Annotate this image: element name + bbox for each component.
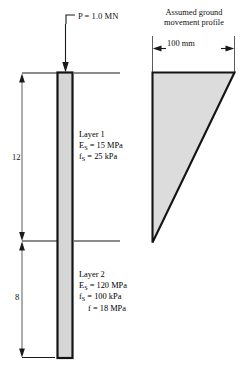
load-label: P = 1.0 MN (78, 11, 118, 21)
load-arrowhead (62, 62, 68, 73)
ground-movement-triangle (153, 73, 235, 243)
dimension-label-lower: 8 (15, 292, 19, 302)
layer2-line-0-sub: S (84, 284, 87, 291)
dimension-arrow-lower-bottom (19, 349, 25, 358)
dimension-label-upper: 12 (12, 152, 21, 162)
load-leader-line (66, 15, 75, 24)
layer2-annotation: Layer 2 ES = 120 MPa fS = 100 kPa f = 18… (79, 270, 127, 315)
layer2-line-0-text: = 120 MPa (88, 281, 127, 290)
profile-dim-arrowhead-left (153, 46, 162, 52)
pile-soil-diagram: P = 1.0 MN Assumed ground movement profi… (0, 0, 242, 376)
profile-width-label: 100 mm (167, 39, 195, 49)
diagram-canvas (0, 0, 242, 376)
layer1-annotation: Layer 1 ES = 15 MPa fS = 25 kPa (79, 130, 123, 164)
dimension-chain (19, 74, 25, 358)
layer1-line-1-text: = 25 kPa (85, 152, 117, 161)
dimension-arrow-upper-top (19, 74, 25, 83)
layer1-line-1-sub: S (82, 155, 85, 162)
profile-title: Assumed ground movement profile (152, 8, 236, 28)
dimension-arrow-upper-bottom (19, 232, 25, 241)
layer2-line-0: ES = 120 MPa (79, 281, 127, 292)
layer1-name: Layer 1 (79, 130, 123, 141)
ground-movement-profile (153, 36, 235, 243)
profile-title-line2: movement profile (164, 18, 224, 27)
layer1-line-0-sub: S (84, 144, 87, 151)
layer2-line-2: f = 18 MPa (79, 304, 127, 315)
profile-dim-arrowhead-right (226, 46, 235, 52)
pile-shaft (58, 73, 73, 359)
load-arrow-group (62, 15, 75, 73)
layer2-line-1-text: = 100 kPa (85, 292, 121, 301)
layer1-line-0-text: = 15 MPa (88, 141, 123, 150)
layer1-line-0: ES = 15 MPa (79, 141, 123, 152)
profile-title-line1: Assumed ground (166, 8, 223, 17)
layer2-line-2-text: = 18 MPa (91, 304, 126, 313)
layer2-name: Layer 2 (79, 270, 127, 281)
pile-body (58, 73, 73, 359)
dimension-arrow-lower-top (19, 242, 25, 251)
layer1-line-1: fS = 25 kPa (79, 152, 123, 163)
layer2-line-1: fS = 100 kPa (79, 292, 127, 303)
layer2-line-1-sub: S (82, 295, 85, 302)
